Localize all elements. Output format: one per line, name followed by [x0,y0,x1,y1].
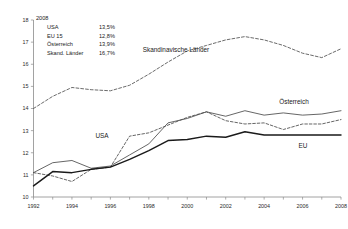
y-tick-label: 13 [23,128,29,134]
legend-year: 2008 [36,15,48,21]
y-tick-label: 12 [23,150,29,156]
x-tick-label: 2000 [181,203,193,209]
y-tick-label: 17 [23,39,29,45]
x-tick-label: 2008 [335,203,347,209]
x-tick-label: 1998 [143,203,155,209]
y-axis-ticks: 101112131415161718 [23,17,34,200]
legend-label-usa: USA [47,24,59,30]
y-tick-label: 18 [23,17,29,23]
x-tick-label: 1992 [28,203,40,209]
eu-label: EU [299,142,308,149]
legend-label-oesterreich: Österreich [47,41,73,47]
legend-label-skand: Skand. Länder [47,50,84,56]
y-tick-label: 11 [23,172,29,178]
y-tick-label: 15 [23,83,29,89]
series-annotations: Skandinavische LänderÖsterreichUSAEU [95,46,309,149]
line-chart: 101112131415161718 199219941996199820002… [0,0,348,229]
legend-value-eu15: 12,8% [99,33,115,39]
legend-value-oesterreich: 13,9% [99,41,115,47]
series-paths [34,37,342,186]
y-tick-label: 10 [23,194,29,200]
legend-value-skand: 16,7% [99,50,115,56]
series-line-sterreich [34,111,342,173]
x-tick-label: 2002 [220,203,232,209]
chart-canvas: 101112131415161718 199219941996199820002… [0,0,348,229]
x-tick-label: 2004 [258,203,270,209]
legend-value-usa: 13,5% [99,24,115,30]
legend-box: 2008 USA 13,5% EU 15 12,8% Österreich 13… [36,15,115,56]
x-tick-label: 1996 [104,203,116,209]
y-tick-label: 16 [23,61,29,67]
x-tick-label: 1994 [66,203,78,209]
skandinavische-laender-label: Skandinavische Länder [143,46,210,53]
y-tick-label: 14 [23,105,29,111]
legend-label-eu15: EU 15 [47,33,63,39]
oesterreich-label: Österreich [279,98,309,105]
x-axis-ticks: 199219941996199820002002200420062008 [28,197,348,209]
series-line-eu [34,132,342,186]
x-tick-label: 2006 [297,203,309,209]
usa-label: USA [95,132,109,139]
